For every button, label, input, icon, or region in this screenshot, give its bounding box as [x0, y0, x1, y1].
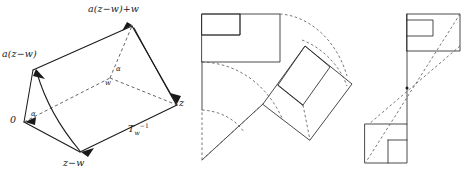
- panel-middle-rotation: [190, 0, 355, 177]
- label-bottom-vertex: z−w: [63, 158, 84, 168]
- panel-left-drawing: [0, 0, 195, 177]
- panel-right-point-reflection: [355, 0, 471, 177]
- label-right-vertex: z: [179, 98, 184, 108]
- label-angle-alpha-lower: α: [31, 111, 36, 118]
- label-origin: 0: [10, 115, 16, 125]
- panel-right-drawing: [355, 0, 471, 177]
- panel-left-prism: a(z−w)+w a(z−w) 0 z−w z w α α Tw−1: [0, 0, 195, 177]
- rotation-arcs: [37, 28, 176, 151]
- label-map-Tw-inverse: Tw−1: [128, 123, 149, 136]
- rotation-arcs-dashed: [202, 14, 347, 160]
- figure-canvas: a(z−w)+w a(z−w) 0 z−w z w α α Tw−1: [0, 0, 471, 177]
- label-angle-alpha-upper: α: [116, 66, 121, 73]
- prism-solid-edges: [24, 26, 177, 152]
- label-top-vertex: a(z−w)+w: [88, 4, 139, 14]
- panel-middle-drawing: [190, 0, 355, 177]
- label-center-w: w: [105, 80, 111, 87]
- direction-arrowheads: [25, 22, 181, 157]
- label-map-sub: w: [134, 129, 139, 136]
- top-rectangle: [407, 14, 460, 51]
- label-map-sup: −1: [140, 122, 149, 129]
- upright-rectangle: [202, 14, 280, 62]
- label-left-vertex: a(z−w): [2, 49, 37, 59]
- centre-point-marker: [406, 87, 409, 90]
